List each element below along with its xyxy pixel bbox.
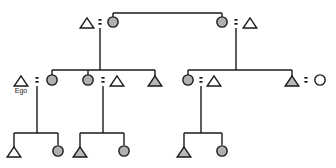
equals-upper-bar <box>199 77 202 79</box>
generation2-ego-male-label: Ego <box>15 87 28 95</box>
generation3-male-3[interactable] <box>177 147 191 157</box>
kinship-diagram: Ego <box>0 0 336 168</box>
generation3-female-2[interactable] <box>119 146 129 156</box>
marriage-generation1-left <box>98 19 101 25</box>
generation1-female-right[interactable] <box>217 17 227 27</box>
generation1-male-right[interactable] <box>243 18 257 28</box>
generation1-male-left[interactable] <box>80 18 94 28</box>
equals-upper-bar <box>101 77 104 79</box>
generation2-ego-male[interactable] <box>14 76 28 86</box>
equals-upper-bar <box>304 77 307 79</box>
marriage-layer <box>35 19 307 83</box>
equals-lower-bar <box>101 81 104 83</box>
generation2-male-sibling[interactable] <box>148 76 162 86</box>
equals-lower-bar <box>199 81 202 83</box>
marriage-generation2-right <box>199 77 202 83</box>
equals-lower-bar <box>98 23 101 25</box>
generation3-male-2[interactable] <box>73 147 87 157</box>
marriage-generation1-right <box>234 19 237 25</box>
equals-upper-bar <box>35 77 38 79</box>
generation2-female-spouse-1[interactable] <box>47 75 57 85</box>
equals-upper-bar <box>234 19 237 21</box>
node-layer <box>7 17 325 157</box>
generation3-male-1[interactable] <box>7 147 21 157</box>
generation3-female-1[interactable] <box>53 146 63 156</box>
generation2-male-spouse-3[interactable] <box>207 76 221 86</box>
generation2-female-spouse-4[interactable] <box>315 75 325 85</box>
generation2-female-sibling-r[interactable] <box>183 75 193 85</box>
marriage-generation2-far <box>304 77 307 83</box>
equals-upper-bar <box>98 19 101 21</box>
equals-lower-bar <box>304 81 307 83</box>
marriage-ego-spouse <box>35 77 38 83</box>
generation3-female-3[interactable] <box>217 146 227 156</box>
equals-lower-bar <box>35 81 38 83</box>
marriage-generation2-mid <box>101 77 104 83</box>
generation2-male-spouse-2[interactable] <box>110 76 124 86</box>
generation2-female-sibling[interactable] <box>83 75 93 85</box>
kinship-svg-canvas: Ego <box>0 0 336 168</box>
equals-lower-bar <box>234 23 237 25</box>
generation1-female-left[interactable] <box>108 17 118 27</box>
generation2-male-sibling-r[interactable] <box>285 76 299 86</box>
label-layer: Ego <box>15 87 28 95</box>
